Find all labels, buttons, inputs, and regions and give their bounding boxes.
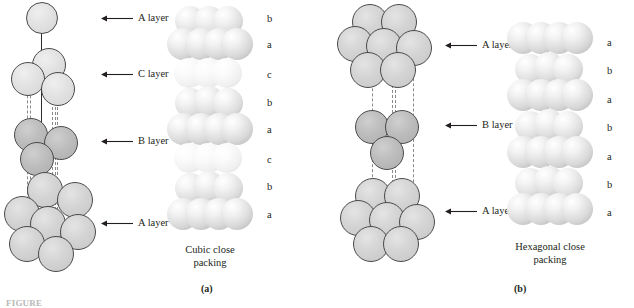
stack-sphere: [561, 136, 593, 168]
stack-row: [167, 28, 253, 60]
stack-row: [167, 58, 253, 88]
stack-caption-cubic: Cubic close packing: [150, 243, 270, 269]
sphere-a-layer: [38, 236, 74, 272]
stack-row: [507, 79, 593, 111]
layer-letter: a: [607, 208, 612, 219]
panel-a-cubic-close-packing: A layer C layer B layer A layer: [0, 0, 317, 304]
figure-caption: FIGURE: [6, 298, 42, 308]
stack-row: [507, 166, 593, 196]
stack-sphere: [561, 79, 593, 111]
left-arrow-icon: [101, 137, 133, 146]
layer-letter: c: [267, 155, 272, 166]
layer-letter: b: [607, 123, 612, 134]
panel-a-sphere-stack: [167, 6, 253, 234]
left-arrow-icon: [445, 207, 477, 216]
stack-row: [167, 143, 253, 173]
layer-letter: b: [267, 98, 272, 109]
callout-c-layer: C layer: [101, 67, 169, 81]
layer-letter: b: [607, 180, 612, 191]
layer-letter: b: [267, 182, 272, 193]
stack-row: [507, 52, 593, 82]
left-arrow-icon: [101, 14, 133, 23]
stack-row: [507, 109, 593, 139]
layer-letter: a: [607, 38, 612, 49]
left-arrow-icon: [101, 70, 133, 79]
sphere-a-layer: [380, 52, 416, 88]
stack-sphere: [212, 58, 242, 88]
stack-caption-hexagonal: Hexagonal close packing: [485, 240, 615, 266]
callout-label: C layer: [138, 69, 169, 80]
layer-letter: b: [267, 14, 272, 25]
callout-b-layer: B layer: [445, 118, 513, 132]
callout-a-layer-bottom: A layer: [445, 204, 513, 218]
stack-sphere: [221, 113, 253, 145]
stack-sphere: [212, 143, 242, 173]
panel-letter-b: (b): [514, 283, 526, 294]
layer-letter: b: [607, 66, 612, 77]
stack-sphere: [221, 198, 253, 230]
left-arrow-icon: [445, 41, 477, 50]
stack-sphere: [561, 193, 593, 225]
stack-row: [167, 86, 253, 116]
layer-letter: a: [607, 152, 612, 163]
left-arrow-icon: [445, 121, 477, 130]
callout-label: A layer: [138, 218, 169, 229]
sphere-b-layer: [20, 142, 54, 176]
layer-letter: a: [267, 210, 272, 221]
panel-b-sphere-stack: [507, 22, 593, 228]
layer-letter: a: [267, 125, 272, 136]
stack-row: [507, 136, 593, 168]
stack-row: [507, 193, 593, 225]
panel-b-hexagonal-close-packing: A layer B layer A layer: [317, 0, 634, 304]
stack-row: [507, 22, 593, 54]
left-arrow-icon: [101, 219, 133, 228]
callout-a-layer-top: A layer: [445, 38, 513, 52]
callout-a-layer-top: A layer: [101, 11, 169, 25]
stack-row: [167, 171, 253, 201]
sphere-a-top: [26, 2, 58, 34]
stack-row: [167, 198, 253, 230]
callout-a-layer-bottom: A layer: [101, 216, 169, 230]
callout-label: B layer: [138, 136, 169, 147]
sphere-b-layer: [370, 136, 404, 170]
sphere-c-layer: [41, 72, 75, 106]
sphere-a-layer: [383, 226, 419, 262]
callout-b-layer: B layer: [101, 134, 169, 148]
sphere-c-layer: [11, 62, 45, 96]
layer-letter: c: [267, 70, 272, 81]
stack-sphere: [561, 22, 593, 54]
stack-sphere: [221, 28, 253, 60]
layer-letter: a: [267, 40, 272, 51]
callout-label: A layer: [138, 13, 169, 24]
stack-row: [167, 113, 253, 145]
layer-letter: a: [607, 95, 612, 106]
panel-letter-a: (a): [201, 283, 213, 294]
